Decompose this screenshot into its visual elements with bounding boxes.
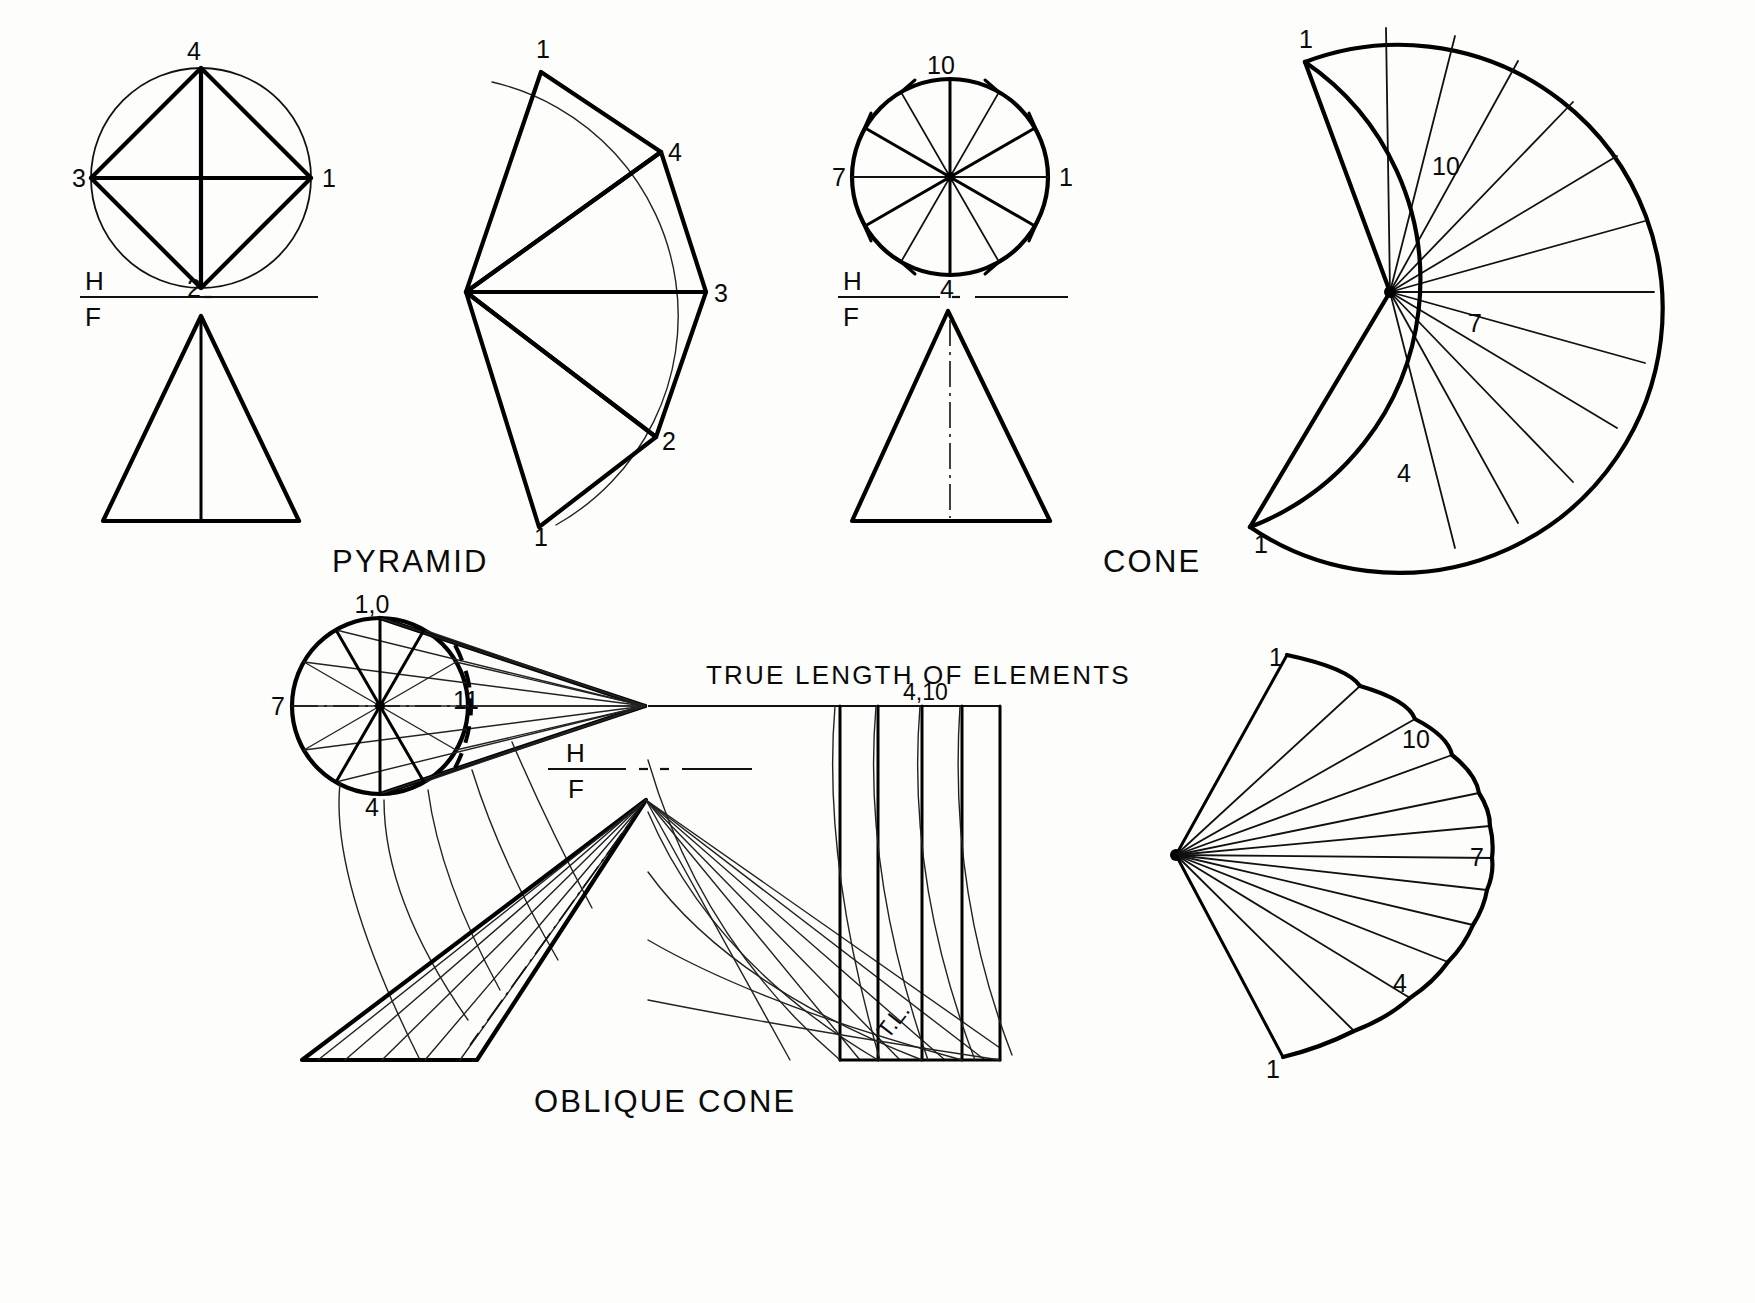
cone-dev-label-10: 10 [1432,152,1460,180]
cone-dev-apex [1384,286,1396,298]
oblique-hf-f: F [568,774,584,804]
cone-top-label-7: 7 [832,163,846,191]
oblique-top-elem-12 [456,662,645,706]
pyramid-front-view [103,316,299,521]
cone-dev-elem-11 [1390,292,1518,523]
cone-top-label-10: 10 [927,51,955,79]
cone-dev-label-1b: 1 [1254,530,1268,558]
cone-top-label-4: 4 [940,275,954,303]
cone-top-view [852,79,1048,275]
cone-development [1250,28,1663,573]
oblique-dev-elem-5b [1176,855,1473,925]
pyramid-hf-h: H [85,266,104,296]
tl-arc-9 [958,706,1012,1055]
oblique-dev-elem-5t [1176,793,1479,855]
oblique-front-elem-c [382,800,646,1060]
oblique-top-label-10: 1,0 [355,590,390,618]
tl-arc-5 [648,1000,1000,1060]
pyramid-hf-f: F [85,302,101,332]
technical-drawing-canvas: 4 1 2 3 H F 1 4 3 2 1 PYRAMID 10 1 4 7 H… [0,0,1755,1303]
pyramid-dev-label-3: 3 [714,279,728,307]
oblique-dev-elem-7 [1176,855,1492,858]
pyramid-top-view [91,68,311,288]
cone-hf-h: H [843,266,862,296]
pyramid-top-label-1: 1 [322,164,336,192]
oblique-dev-elem-6t [1176,826,1490,855]
caption-oblique-cone: OBLIQUE CONE [534,1084,796,1119]
oblique-dev-elem-4t [1176,755,1452,855]
cone-tick-1 [1029,113,1041,140]
pyramid-dev-label-4: 4 [668,138,682,166]
oblique-dev-elem-1t [1176,655,1287,855]
cone-front-triangle [852,311,1050,521]
pyramid-top-label-3: 3 [72,164,86,192]
cone-dev-label-1t: 1 [1299,25,1313,53]
oblique-top-elem-2 [456,706,645,750]
cone-top-label-1: 1 [1059,163,1073,191]
oblique-tl-ray-5 [646,800,1000,1048]
oblique-cone-development [1170,655,1493,1057]
oblique-dev-label-7: 7 [1470,843,1484,871]
cone-dev-elem-4 [1390,102,1573,292]
pyramid-dev-label-1t: 1 [536,35,550,63]
oblique-top-center-dot [375,701,385,711]
caption-cone: CONE [1103,544,1201,579]
pyramid-dev-panel-2 [466,152,706,292]
cone-dev-elem-8 [1390,292,1645,363]
oblique-front-outline [302,800,646,1060]
oblique-dev-elem-3t [1176,719,1415,855]
oblique-arc-1 [339,783,420,1060]
oblique-top-label-4: 4 [365,793,379,821]
cone-hf-f: F [843,302,859,332]
oblique-dev-elem-1b [1176,855,1283,1057]
cone-dev-label-7: 7 [1468,309,1482,337]
oblique-front-elem-d [425,800,646,1060]
cone-top-center-dot [945,172,955,182]
oblique-hf-h: H [566,738,585,768]
pyramid-dev-label-1b: 1 [534,523,548,551]
oblique-top-label-7: 7 [271,692,285,720]
pyramid-dev-panel-4 [466,292,656,527]
oblique-top-label-11: 11 [453,686,479,714]
true-length-diagram [648,706,1012,1060]
oblique-dev-elem-3b [1176,855,1410,998]
oblique-front-elem-b [345,800,646,1060]
oblique-tl-ray-4 [646,800,985,1060]
oblique-dev-label-1t: 1 [1269,643,1283,671]
pyramid-dev-panel-1 [466,72,661,292]
cone-dev-radius-end [1250,292,1390,527]
true-length-top-label: 4,10 [903,679,948,705]
cone-dev-elem-5 [1390,156,1617,292]
oblique-dev-label-10: 10 [1402,725,1430,753]
oblique-tl-ray-6 [646,800,790,1060]
oblique-arc-4 [472,770,558,960]
cone-tick-4 [859,214,871,241]
caption-pyramid: PYRAMID [332,544,489,579]
pyramid-dev-label-2: 2 [662,427,676,455]
oblique-dev-elem-2b [1176,855,1354,1031]
cone-dev-elem-12 [1390,292,1455,548]
cone-tick-2 [1029,214,1041,241]
oblique-dev-label-4: 4 [1393,969,1407,997]
oblique-front-elem-a [318,800,646,1060]
cone-dev-elem-6 [1390,221,1645,292]
cone-dev-elem-9 [1390,292,1617,428]
oblique-tl-ray-1 [646,800,860,1060]
cone-dev-label-4: 4 [1397,459,1411,487]
pyramid-top-label-2: 2 [187,274,201,302]
pyramid-top-label-4: 4 [187,37,201,65]
drawing-sheet: 4 1 2 3 H F 1 4 3 2 1 PYRAMID 10 1 4 7 H… [0,0,1755,1303]
pyramid-dev-panel-3 [466,292,706,437]
oblique-tl-ray-2 [646,800,900,1060]
oblique-dev-label-1b: 1 [1266,1055,1280,1083]
tl-arc-2 [648,812,878,1060]
cone-front-view [852,311,1050,521]
cone-tick-3 [859,113,871,140]
oblique-dev-elem-2t [1176,686,1360,855]
tl-arc-4 [648,940,962,1060]
